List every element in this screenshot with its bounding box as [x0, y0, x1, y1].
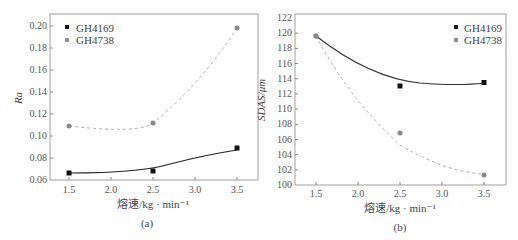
- y-axis-label-b: SDAS/μm: [255, 79, 267, 121]
- x-tick: 3.5: [231, 184, 244, 195]
- legend-label: GH4169: [76, 22, 114, 34]
- x-axis-label-a: 熔速/kg · min⁻¹: [117, 197, 188, 210]
- y-tick: 104: [277, 149, 292, 160]
- data-point-gh4738: [482, 173, 487, 178]
- data-point-gh4738: [67, 124, 72, 129]
- x-tick: 3.0: [189, 184, 202, 195]
- x-tick: 1.5: [63, 184, 76, 195]
- panel-a: 0.20 0.18 0.16 0.14 0.12 0.10 0.08 0.06 …: [12, 14, 258, 230]
- y-tick: 0.18: [30, 42, 48, 53]
- legend-label: GH4738: [76, 34, 114, 46]
- legend-a: GH4169 GH4738: [65, 22, 115, 46]
- legend-marker-circle-icon: [65, 38, 69, 42]
- y-tick: 0.16: [30, 64, 48, 75]
- legend-b: GH4169 GH4738: [454, 22, 503, 46]
- y-tick: 0.12: [30, 108, 48, 119]
- y-tick: 100: [277, 179, 292, 190]
- x-tick: 1.5: [310, 188, 323, 199]
- y-tick: 0.06: [30, 174, 48, 185]
- x-tick: 2.5: [394, 188, 407, 199]
- x-axis-label-b: 熔速/kg · min⁻¹: [364, 201, 435, 214]
- data-point-gh4738: [151, 121, 156, 126]
- x-tick: 2.0: [352, 188, 365, 199]
- data-point-gh4169: [398, 84, 403, 89]
- y-tick: 108: [277, 118, 292, 129]
- x-tick: 3.0: [436, 188, 449, 199]
- data-point-gh4169: [482, 80, 487, 85]
- y-axis-a: 0.20 0.18 0.16 0.14 0.12 0.10 0.08 0.06 …: [12, 20, 53, 185]
- y-tick: 120: [277, 27, 292, 38]
- x-axis-a: 1.5 2.0 2.5 3.0 3.5 熔速/kg · min⁻¹: [63, 177, 244, 210]
- data-point-gh4738: [235, 26, 240, 31]
- x-tick: 3.5: [478, 188, 491, 199]
- data-point-gh4738: [398, 131, 403, 136]
- y-tick: 106: [277, 134, 292, 145]
- x-axis-b: 1.5 2.0 2.5 3.0 3.5 熔速/kg · min⁻¹: [310, 182, 491, 214]
- panel-b: 122 120 118 116 114 112 110 108 106 104 …: [255, 12, 506, 234]
- y-tick: 102: [277, 164, 292, 175]
- y-tick: 114: [277, 73, 292, 84]
- y-tick: 116: [277, 58, 292, 69]
- y-tick: 0.08: [30, 152, 48, 163]
- y-tick: 0.20: [30, 20, 48, 31]
- x-tick: 2.5: [147, 184, 160, 195]
- x-tick: 2.0: [105, 184, 118, 195]
- data-point-gh4169: [151, 169, 156, 174]
- fit-curve-gh4738-b: [316, 36, 484, 174]
- y-axis-label-a: Ra: [12, 91, 24, 105]
- legend-marker-square-icon: [454, 25, 458, 29]
- figure: 0.20 0.18 0.16 0.14 0.12 0.10 0.08 0.06 …: [0, 0, 518, 240]
- legend-marker-square-icon: [65, 25, 69, 29]
- legend-label: GH4738: [464, 34, 502, 46]
- y-tick: 112: [277, 88, 292, 99]
- y-axis-b: 122 120 118 116 114 112 110 108 106 104 …: [255, 12, 298, 190]
- data-point-gh4169: [235, 146, 240, 151]
- legend-marker-circle-icon: [454, 38, 458, 42]
- y-tick: 118: [277, 42, 292, 53]
- panel-caption-a: (a): [141, 217, 154, 230]
- data-point-gh4169: [67, 171, 72, 176]
- legend-label: GH4169: [464, 22, 502, 34]
- y-tick: 110: [277, 103, 292, 114]
- panel-caption-b: (b): [394, 221, 407, 234]
- y-tick: 0.10: [30, 130, 48, 141]
- y-tick: 122: [277, 12, 292, 23]
- data-point-gh4738: [313, 33, 318, 38]
- y-tick: 0.14: [30, 86, 48, 97]
